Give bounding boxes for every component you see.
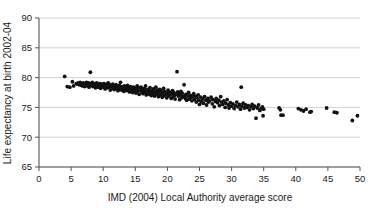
- data-point: [203, 95, 207, 99]
- x-tick-label-10: 10: [98, 173, 109, 184]
- y-tick-label-75: 75: [21, 102, 32, 113]
- x-axis-title: IMD (2004) Local Authority average score: [108, 192, 293, 203]
- data-point: [350, 119, 354, 123]
- data-point: [175, 70, 179, 74]
- x-tick-label-15: 15: [130, 173, 141, 184]
- data-point: [173, 97, 177, 101]
- data-point: [257, 103, 261, 107]
- data-point: [68, 85, 72, 89]
- data-point: [278, 108, 282, 112]
- y-tick-label-80: 80: [21, 72, 32, 83]
- x-tick-label-20: 20: [162, 173, 173, 184]
- x-tick-label-35: 35: [258, 173, 269, 184]
- data-point: [219, 95, 223, 99]
- x-tick-label-50: 50: [355, 173, 366, 184]
- data-point: [281, 113, 285, 117]
- chart-canvas: 65707580859005101520253035404550 IMD (20…: [0, 0, 375, 208]
- x-tick-label-25: 25: [194, 173, 205, 184]
- data-point: [63, 75, 67, 79]
- data-point: [304, 107, 308, 111]
- data-point: [212, 105, 216, 109]
- x-tick-label-45: 45: [323, 173, 334, 184]
- data-point: [335, 111, 339, 115]
- data-point: [201, 101, 205, 105]
- data-point: [325, 106, 329, 110]
- data-point: [239, 85, 243, 89]
- data-point: [70, 80, 74, 84]
- x-tick-label-40: 40: [291, 173, 302, 184]
- data-point: [262, 107, 266, 111]
- data-point: [88, 70, 92, 74]
- data-point: [356, 114, 360, 118]
- data-point: [223, 106, 227, 110]
- y-tick-label-85: 85: [21, 42, 32, 53]
- x-tick-label-0: 0: [36, 173, 41, 184]
- x-tick-label-30: 30: [226, 173, 237, 184]
- data-point: [144, 84, 148, 88]
- data-point: [182, 83, 186, 87]
- y-tick-label-90: 90: [21, 12, 32, 23]
- y-axis-title: Life expectancy at birth 2002-04: [2, 21, 13, 164]
- gridlines: [39, 18, 360, 167]
- data-point: [309, 110, 313, 114]
- y-tick-label-65: 65: [21, 161, 32, 172]
- data-point: [254, 116, 258, 120]
- data-point: [261, 114, 265, 118]
- x-tick-label-5: 5: [68, 173, 73, 184]
- data-point: [119, 80, 123, 84]
- data-point: [225, 98, 229, 102]
- scatter-chart: 65707580859005101520253035404550 IMD (20…: [0, 0, 375, 208]
- y-tick-label-70: 70: [21, 132, 32, 143]
